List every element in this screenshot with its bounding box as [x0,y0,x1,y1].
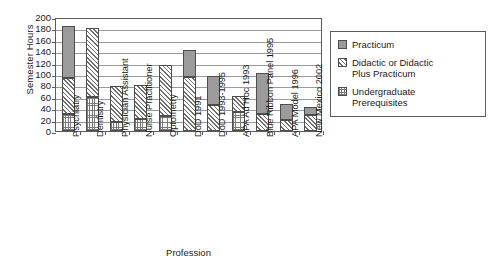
bar-segment[interactable] [62,26,75,78]
chart-legend: PracticumDidactic or Didactic Plus Pract… [330,31,486,117]
solid-gray-swatch-icon [338,40,347,49]
x-tick-label: Nurse Practitioner [144,63,154,137]
legend-item[interactable]: Didactic or Didactic Plus Practicum [338,57,485,79]
y-tick-label: 120 [24,59,51,69]
bar-segment[interactable] [86,28,99,96]
x-tick-label: Psychiatry [71,95,81,137]
x-tick-label: DoD 1993-1995 [217,72,227,137]
y-tick-label: 180 [24,24,51,34]
y-tick-label: 60 [24,93,51,103]
y-tick-label: 20 [24,116,51,126]
y-tick-label: 0 [24,127,51,137]
legend-item[interactable]: Undergraduate Prerequisites [338,86,485,108]
fine-dot-grid-swatch-icon [338,87,347,96]
x-tick-label: Blue Ribbon Panel 1995 [265,38,275,137]
legend-label: Practicum [352,39,394,50]
x-tick-label: Optometry [168,94,178,137]
y-tick-label: 140 [24,47,51,57]
x-tick-label: New Mexico 2002 [314,64,324,137]
x-tick-label: DoD 1991 [193,96,203,137]
x-axis-title: Profession [55,247,322,258]
x-tick-label: APA Ad Hoc 1993 [241,65,251,137]
chart-figure: Semester Hours 2001801601401201008060402… [0,0,492,276]
x-axis-tick-labels: PsychiatryDentistryPhysician AssistantNu… [55,134,322,239]
y-axis-tick-labels: 200180160140120100806040200 [24,13,51,127]
diagonal-hatch-swatch-icon [338,58,347,67]
y-tick-label: 80 [24,81,51,91]
legend-item[interactable]: Practicum [338,39,485,50]
y-tick-label: 100 [24,70,51,80]
x-tick-label: Dentistry [95,101,105,137]
y-tick-label: 40 [24,104,51,114]
bar-segment[interactable] [183,50,196,77]
legend-label: Undergraduate Prerequisites [352,86,415,108]
y-tick-label: 200 [24,13,51,23]
x-tick-label: APA Model 1996 [290,69,300,137]
y-tick-label: 160 [24,36,51,46]
legend-label: Didactic or Didactic Plus Practicum [352,57,433,79]
x-tick-label: Physician Assistant [120,58,130,137]
